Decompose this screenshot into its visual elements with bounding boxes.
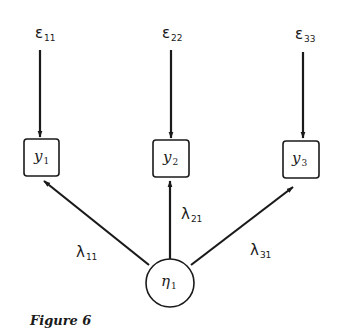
label-y1: y1	[34, 149, 49, 166]
label-e11: ε11	[35, 26, 56, 43]
label-eta1: η1	[161, 274, 177, 291]
label-e22: ε22	[162, 26, 183, 43]
label-y2: y2	[163, 150, 178, 167]
arrow-eta1-y3	[191, 187, 293, 265]
label-y3: y3	[292, 151, 307, 168]
label-lambda31: λ31	[250, 243, 271, 260]
figure-caption: Figure 6	[30, 313, 91, 328]
label-e33: ε33	[295, 27, 316, 44]
label-lambda11: λ11	[76, 245, 97, 262]
label-lambda21: λ21	[181, 207, 202, 224]
